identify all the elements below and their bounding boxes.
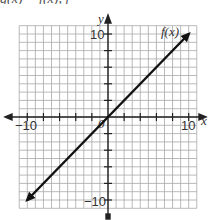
y-tick-label-10: 10 <box>90 27 104 42</box>
function-label: f(x) <box>161 24 179 39</box>
x-tick-label-10: 10 <box>181 118 195 133</box>
y-axis-label: y <box>96 11 104 26</box>
y-tick-label-neg10: −10 <box>84 194 106 209</box>
x-tick-label-neg10: −10 <box>15 118 37 133</box>
x-axis-label: x <box>200 113 207 128</box>
coordinate-plane: y x 10 −10 −10 10 0 f(x) <box>0 0 208 220</box>
